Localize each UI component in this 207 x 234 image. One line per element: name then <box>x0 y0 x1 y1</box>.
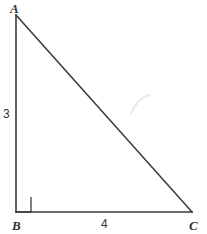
side-length-label-bc: 4 <box>101 218 108 230</box>
scan-smudge-artifact <box>131 95 150 114</box>
vertex-label-b: B <box>12 219 21 232</box>
triangle-side-ac-hypotenuse <box>16 15 192 212</box>
geometry-figure-canvas: A B C 3 4 <box>0 0 207 234</box>
side-length-label-ab: 3 <box>3 108 10 120</box>
vertex-label-a: A <box>10 2 19 15</box>
vertex-label-c: C <box>189 219 198 232</box>
right-angle-marker <box>16 197 31 212</box>
triangle-drawing <box>0 0 207 234</box>
